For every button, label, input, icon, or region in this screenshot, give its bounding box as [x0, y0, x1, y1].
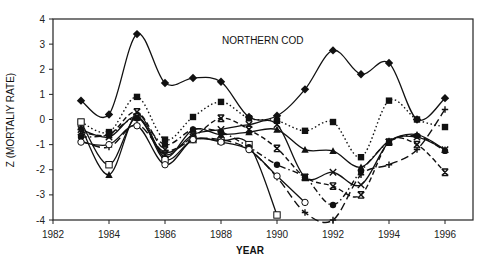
x-tick-label: 1992 — [322, 229, 345, 240]
series-asterisk-dashed — [78, 109, 448, 198]
axes: 43210-1-2-3-4198219841986198819901992199… — [36, 14, 473, 241]
chart-title: NORTHERN COD — [222, 35, 303, 46]
x-tick-label: 1986 — [154, 229, 177, 240]
y-tick-label: -1 — [36, 139, 45, 150]
series-group — [77, 30, 449, 223]
x-tick-label: 1984 — [98, 229, 121, 240]
y-tick-label: 3 — [39, 39, 45, 50]
x-tick-label: 1982 — [42, 229, 65, 240]
x-tick-label: 1990 — [266, 229, 289, 240]
y-tick-label: 4 — [39, 14, 45, 25]
x-axis-label: YEAR — [236, 245, 265, 256]
y-tick-label: -4 — [36, 215, 45, 226]
y-tick-label: 2 — [39, 64, 45, 75]
x-tick-label: 1996 — [434, 229, 457, 240]
y-tick-label: 1 — [39, 89, 45, 100]
series-filled-square-dotted — [78, 94, 448, 161]
x-tick-label: 1994 — [378, 229, 401, 240]
y-tick-label: 0 — [39, 114, 45, 125]
y-axis-label: Z (MORTALIY RATE) — [5, 73, 16, 167]
y-tick-label: -2 — [36, 164, 45, 175]
y-tick-label: -3 — [36, 189, 45, 200]
x-tick-label: 1988 — [210, 229, 233, 240]
series-plus-dashed — [78, 106, 448, 223]
mortality-chart: 43210-1-2-3-4198219841986198819901992199… — [0, 0, 497, 272]
